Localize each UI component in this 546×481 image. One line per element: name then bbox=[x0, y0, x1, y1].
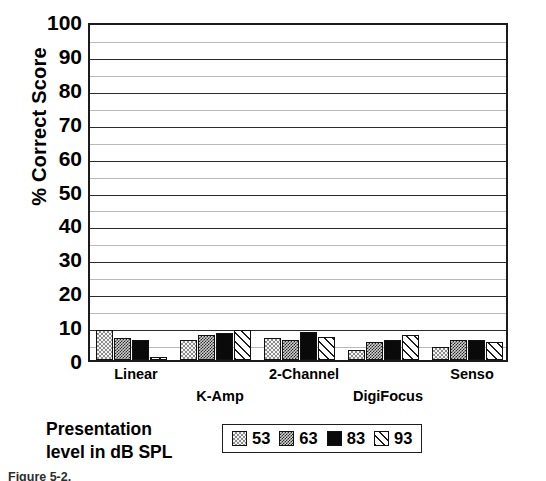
y-tick-80: 80 bbox=[24, 80, 82, 101]
bar-k-amp-83 bbox=[216, 333, 233, 360]
bar-senso-93 bbox=[486, 342, 503, 360]
figure: % Correct Score 100 90 80 70 60 50 40 30… bbox=[0, 0, 546, 481]
bar-digifocus-63 bbox=[366, 342, 383, 360]
bar-2-channel-83 bbox=[300, 332, 317, 360]
bar-2-channel-93 bbox=[318, 337, 335, 360]
y-tick-10: 10 bbox=[24, 317, 82, 338]
bar-k-amp-53 bbox=[180, 340, 197, 360]
bar-series-container bbox=[90, 25, 506, 360]
bar-k-amp-93 bbox=[234, 330, 251, 360]
bar-senso-63 bbox=[450, 340, 467, 360]
legend-item-53: 53 bbox=[232, 430, 270, 447]
legend-swatch-83 bbox=[327, 431, 342, 446]
bar-linear-93 bbox=[150, 357, 167, 360]
y-tick-0: 0 bbox=[24, 351, 82, 372]
bar-senso-83 bbox=[468, 340, 485, 360]
legend-item-83: 83 bbox=[327, 430, 365, 447]
legend-title-line2: level in dB SPL bbox=[46, 441, 172, 464]
y-tick-100: 100 bbox=[24, 12, 82, 33]
y-tick-90: 90 bbox=[24, 46, 82, 67]
legend-label-83: 83 bbox=[347, 430, 365, 447]
x-label-linear: Linear bbox=[114, 366, 158, 382]
bar-group-2-channel bbox=[264, 25, 348, 360]
legend: 53 63 83 93 bbox=[222, 424, 422, 453]
bar-k-amp-63 bbox=[198, 335, 215, 360]
bar-2-channel-53 bbox=[264, 338, 281, 360]
y-tick-20: 20 bbox=[24, 283, 82, 304]
legend-swatch-53 bbox=[232, 431, 247, 446]
bar-digifocus-83 bbox=[384, 340, 401, 360]
bar-senso-53 bbox=[432, 347, 449, 360]
x-label-2-channel: 2-Channel bbox=[269, 366, 339, 382]
y-tick-40: 40 bbox=[24, 215, 82, 236]
x-label-digifocus: DigiFocus bbox=[353, 388, 423, 404]
bar-2-channel-63 bbox=[282, 340, 299, 360]
legend-label-63: 63 bbox=[299, 430, 317, 447]
y-tick-70: 70 bbox=[24, 114, 82, 135]
bar-group-k-amp bbox=[180, 25, 264, 360]
legend-swatch-63 bbox=[279, 431, 294, 446]
plot-area bbox=[88, 23, 508, 362]
bar-digifocus-53 bbox=[348, 350, 365, 360]
legend-title: Presentation level in dB SPL bbox=[46, 418, 172, 464]
legend-title-line1: Presentation bbox=[46, 418, 172, 441]
y-tick-50: 50 bbox=[24, 182, 82, 203]
bar-group-linear bbox=[96, 25, 180, 360]
legend-label-53: 53 bbox=[252, 430, 270, 447]
bar-group-digifocus bbox=[348, 25, 432, 360]
legend-swatch-93 bbox=[374, 431, 389, 446]
x-label-senso: Senso bbox=[450, 366, 494, 382]
bar-linear-83 bbox=[132, 340, 149, 360]
legend-item-63: 63 bbox=[279, 430, 317, 447]
bar-linear-53 bbox=[96, 330, 113, 360]
y-tick-30: 30 bbox=[24, 249, 82, 270]
y-tick-60: 60 bbox=[24, 148, 82, 169]
legend-label-93: 93 bbox=[394, 430, 412, 447]
x-label-k-amp: K-Amp bbox=[196, 388, 244, 404]
bar-digifocus-93 bbox=[402, 335, 419, 360]
bar-group-senso bbox=[432, 25, 516, 360]
y-axis-tick-labels: 100 90 80 70 60 50 40 30 20 10 0 bbox=[20, 23, 82, 362]
x-axis-category-labels: Linear K-Amp 2-Channel DigiFocus Senso bbox=[88, 366, 508, 412]
bar-linear-63 bbox=[114, 338, 131, 360]
legend-item-93: 93 bbox=[374, 430, 412, 447]
figure-caption: Figure 5-2. bbox=[8, 470, 71, 481]
